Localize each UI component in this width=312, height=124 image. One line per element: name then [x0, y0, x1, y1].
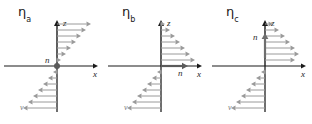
panel-b-lower-profile-arrow-6	[132, 100, 161, 105]
panel-b-lower-profile-arrow-7	[127, 106, 161, 111]
panel-b-upper-profile-arrow-5	[161, 34, 175, 39]
panel-a-lower-profile-arrow-2	[48, 76, 57, 81]
panel-c-upper-profile-arrow-3	[265, 46, 295, 51]
panel-c-lower-profile-arrow-4	[246, 88, 265, 93]
panel-b-normal-label: n	[178, 68, 183, 78]
panel-a-lower-profile-arrow-7	[23, 106, 57, 111]
panel-c-lower-profile-arrow-6	[236, 100, 265, 105]
panel-c-title-symbol: η	[226, 4, 234, 19]
panel-c-lower-profile-arrow-3	[251, 82, 265, 87]
panel-a-lower-profile-arrow-3	[43, 82, 57, 87]
panel-a-normal-point-marker	[54, 63, 60, 69]
panel-c-lower-profile-arrow-2	[256, 76, 265, 81]
panel-b-lower-profile-arrow-3	[147, 82, 161, 87]
panel-b-upper-profile-arrow-4	[161, 40, 180, 45]
panel-b-title-subscript: b	[130, 15, 135, 24]
panel-b-upper-profile-arrow-3	[161, 46, 185, 51]
panel-a-upper-profile-arrow-1	[57, 58, 62, 63]
panel-a-lower-profile-arrow-5	[33, 94, 57, 99]
panel-a-canvas: zxnv	[0, 0, 104, 124]
viscosity-profile-figure: ηazxnvηbzxnvηczxnv	[0, 0, 312, 124]
panel-c-lower-profile-arrow-1	[261, 70, 266, 75]
panel-b-z-axis-label: z	[166, 18, 171, 28]
panel-a: ηazxnv	[0, 0, 104, 124]
panel-b-upper-profile-arrow-6	[161, 28, 170, 33]
panel-a-x-axis	[57, 63, 98, 68]
panel-a-upper-profile-arrow-5	[57, 34, 81, 39]
panel-a-lower-profile-arrow-1	[53, 70, 58, 75]
panel-c-upper-profile-arrow-5	[265, 34, 285, 39]
panel-c-lower-profile-arrow-5	[241, 94, 265, 99]
panel-b-velocity-label: v	[124, 103, 128, 112]
panel-a-title: ηa	[18, 4, 31, 22]
panel-a-upper-profile-arrow-3	[57, 46, 71, 51]
panel-b: ηbzxnv	[104, 0, 208, 124]
panel-b-lower-profile-arrow-4	[142, 88, 161, 93]
panel-a-title-subscript: a	[26, 15, 31, 24]
panel-b-title: ηb	[122, 4, 135, 22]
panel-b-lower-profile-arrow-1	[157, 70, 162, 75]
panel-c-x-axis-label: x	[300, 69, 305, 79]
panel-c-normal-label: n	[253, 32, 258, 42]
panel-b-upper-profile-arrow-2	[161, 52, 190, 57]
panel-b-lower-profile-arrow-2	[152, 76, 161, 81]
panel-c-lower-profile-arrow-7	[231, 106, 265, 111]
panel-a-z-axis-label: z	[62, 18, 67, 28]
panel-c-upper-profile-arrow-4	[265, 40, 290, 45]
panel-c-canvas: zxnv	[208, 0, 312, 124]
panel-a-upper-profile-arrow-6	[57, 28, 86, 33]
panel-a-x-axis-label: x	[92, 69, 97, 79]
panel-c-upper-profile-arrow-2	[265, 52, 299, 57]
panel-c-title-subscript: c	[234, 15, 238, 24]
panel-a-lower-profile-arrow-4	[38, 88, 57, 93]
panel-a-velocity-label: v	[20, 103, 24, 112]
panel-c-velocity-label: v	[228, 103, 232, 112]
panel-a-title-symbol: η	[18, 4, 26, 19]
panel-c-upper-profile-arrow-6	[265, 28, 279, 33]
panel-b-canvas: zxnv	[104, 0, 208, 124]
panel-a-upper-profile-arrow-2	[57, 52, 66, 57]
panel-a-upper-profile-arrow-4	[57, 40, 76, 45]
panel-c-x-axis	[265, 63, 306, 68]
panel-c-title: ηc	[226, 4, 239, 22]
panel-a-lower-profile-arrow-6	[28, 100, 57, 105]
panel-c: ηczxnv	[208, 0, 312, 124]
panel-b-lower-profile-arrow-5	[137, 94, 161, 99]
panel-b-title-symbol: η	[122, 4, 130, 19]
panel-c-upper-profile-arrow-1	[265, 58, 295, 63]
panel-b-normal-arrow	[161, 63, 188, 69]
panel-b-upper-profile-arrow-1	[161, 58, 195, 63]
panel-b-x-axis-label: x	[196, 69, 201, 79]
panel-b-z-axis	[158, 20, 164, 66]
panel-a-normal-label: n	[45, 55, 50, 65]
